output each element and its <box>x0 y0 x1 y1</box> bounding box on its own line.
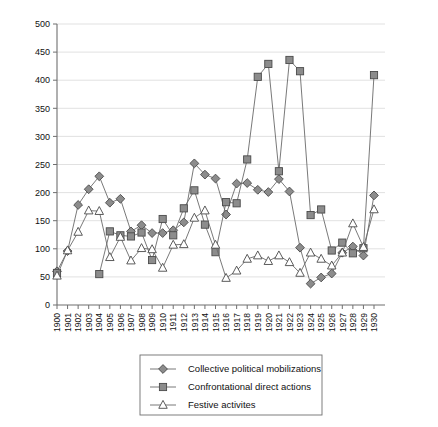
data-point-square <box>149 256 156 263</box>
legend-label[interactable]: Collective political mobilizations <box>188 363 321 374</box>
y-tick-label: 100 <box>35 244 50 254</box>
data-point-square <box>233 200 240 207</box>
x-tick-label: 1918 <box>242 313 252 332</box>
data-point-square <box>328 247 335 254</box>
data-point-square <box>265 60 272 67</box>
x-tick-label: 1923 <box>295 313 305 332</box>
x-tick-label: 1917 <box>232 313 242 332</box>
data-point-square <box>275 168 282 175</box>
x-tick-label: 1920 <box>264 313 274 332</box>
data-point-square <box>106 228 113 235</box>
y-tick-label: 200 <box>35 188 50 198</box>
x-tick-label: 1912 <box>179 313 189 332</box>
x-tick-label: 1909 <box>147 313 157 332</box>
x-tick-label: 1907 <box>126 313 136 332</box>
x-tick-label: 1913 <box>190 313 200 332</box>
legend-label[interactable]: Festive activites <box>188 399 256 410</box>
x-tick-label: 1924 <box>306 313 316 332</box>
x-tick-label: 1905 <box>105 313 115 332</box>
x-tick-label: 1916 <box>221 313 231 332</box>
y-tick-label: 450 <box>35 47 50 57</box>
y-tick-label: 300 <box>35 132 50 142</box>
y-tick-label: 500 <box>35 19 50 29</box>
x-tick-label: 1929 <box>359 313 369 332</box>
y-tick-label: 0 <box>45 300 50 310</box>
x-tick-label: 1908 <box>137 313 147 332</box>
chart-legend: Collective political mobilizationsConfro… <box>140 355 322 415</box>
x-tick-label: 1915 <box>211 313 221 332</box>
y-tick-label: 150 <box>35 216 50 226</box>
y-tick-label: 250 <box>35 160 50 170</box>
x-tick-label: 1922 <box>285 313 295 332</box>
legend-label[interactable]: Confrontational direct actions <box>188 381 311 392</box>
legend-marker-square-icon <box>159 383 166 390</box>
x-tick-label: 1914 <box>200 313 210 332</box>
x-tick-label: 1926 <box>327 313 337 332</box>
y-tick-label: 350 <box>35 104 50 114</box>
line-chart: 050100150200250300350400450500 190019011… <box>0 0 438 427</box>
data-point-square <box>191 187 198 194</box>
data-point-square <box>138 229 145 236</box>
x-tick-label: 1919 <box>253 313 263 332</box>
x-tick-label: 1925 <box>316 313 326 332</box>
data-point-square <box>318 206 325 213</box>
data-point-square <box>170 232 177 239</box>
data-point-square <box>180 205 187 212</box>
x-tick-label: 1903 <box>84 313 94 332</box>
x-tick-label: 1930 <box>369 313 379 332</box>
data-point-square <box>159 215 166 222</box>
data-point-square <box>254 73 261 80</box>
x-tick-label: 1900 <box>52 313 62 332</box>
data-point-square <box>96 270 103 277</box>
y-tick-label: 50 <box>40 272 50 282</box>
x-axis-labels: 1900190119021903190419051906190719081909… <box>52 313 379 332</box>
x-tick-label: 1921 <box>274 313 284 332</box>
x-tick-label: 1901 <box>63 313 73 332</box>
data-point-square <box>286 56 293 63</box>
data-point-square <box>244 156 251 163</box>
data-point-square <box>307 211 314 218</box>
y-tick-label: 400 <box>35 75 50 85</box>
data-point-square <box>222 199 229 206</box>
x-tick-label: 1904 <box>94 313 104 332</box>
x-tick-label: 1928 <box>348 313 358 332</box>
data-point-square <box>370 72 377 79</box>
x-tick-label: 1902 <box>73 313 83 332</box>
data-point-square <box>201 221 208 228</box>
chart-container: 050100150200250300350400450500 190019011… <box>0 0 438 427</box>
data-point-square <box>349 250 356 257</box>
data-point-square <box>127 233 134 240</box>
data-point-square <box>296 68 303 75</box>
x-tick-label: 1911 <box>168 313 178 332</box>
x-tick-label: 1906 <box>116 313 126 332</box>
x-tick-label: 1927 <box>338 313 348 332</box>
x-tick-label: 1910 <box>158 313 168 332</box>
